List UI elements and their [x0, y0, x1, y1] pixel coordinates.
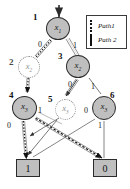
bdd-node-5-label: x3 — [62, 104, 68, 115]
bdd-node-5[interactable]: x3 — [55, 99, 76, 120]
bdd-node-1[interactable]: x1 — [46, 17, 70, 40]
bdd-diagram: x1 1 x2 2 x2 3 x3 4 x3 5 x3 6 1 0 0 1 0 … — [0, 0, 130, 189]
edge-label-n6-high: 1 — [98, 122, 102, 130]
legend-item-path1: Path1 — [90, 20, 115, 32]
edge-n2-n4 — [26, 78, 30, 93]
bdd-node-4-index: 4 — [9, 91, 14, 100]
dashed-line-swatch-icon — [90, 34, 95, 46]
bdd-terminal-1-label: 1 — [26, 163, 31, 174]
bdd-node-3[interactable]: x2 — [66, 55, 90, 78]
edge-label-n1-low: 0 — [38, 41, 42, 49]
edge-label-n6-low: 0 — [84, 107, 88, 115]
dotted-line-swatch-icon — [90, 20, 95, 32]
bdd-node-1-index: 1 — [33, 13, 38, 22]
edge-label-n3-high: 1 — [91, 83, 95, 91]
bdd-node-6-label: x3 — [101, 102, 108, 113]
bdd-node-4-label: x3 — [21, 102, 28, 113]
legend-item-path1-label: Path1 — [98, 22, 115, 30]
bdd-node-2[interactable]: x2 — [18, 56, 40, 78]
bdd-node-3-label: x2 — [75, 61, 82, 72]
bdd-terminal-0[interactable]: 0 — [93, 159, 117, 177]
legend-box: Path1 Path 2 — [86, 15, 127, 49]
bdd-terminal-1[interactable]: 1 — [16, 159, 40, 177]
bdd-node-2-label: x2 — [26, 62, 32, 73]
bdd-node-6-index: 6 — [110, 91, 115, 100]
bdd-terminal-0-label: 0 — [103, 163, 108, 174]
bdd-node-5-index: 5 — [48, 95, 53, 104]
bdd-node-4[interactable]: x3 — [12, 96, 37, 120]
bdd-node-1-label: x1 — [55, 23, 62, 34]
edge-n4-low-t1 — [22, 121, 28, 159]
edge-label-n1-high: 1 — [73, 42, 77, 50]
edge-label-n4-low: 0 — [7, 122, 11, 130]
bdd-node-2-index: 2 — [9, 58, 14, 67]
legend-item-path2-label: Path 2 — [98, 36, 116, 44]
edge-n4-high-t0 — [35, 117, 102, 159]
edge-label-n3-low: 0 — [68, 81, 72, 89]
legend-item-path2: Path 2 — [90, 34, 116, 46]
edge-label-n4-high: 1 — [38, 107, 42, 115]
bdd-node-3-index: 3 — [58, 52, 63, 61]
